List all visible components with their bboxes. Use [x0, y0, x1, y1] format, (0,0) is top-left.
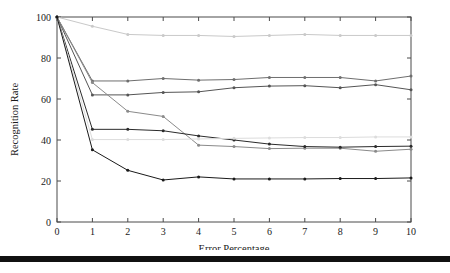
series-marker [410, 145, 413, 148]
series-marker [374, 150, 377, 153]
series-marker [126, 169, 129, 172]
x-tick-label: 8 [338, 226, 343, 237]
series-marker [162, 34, 165, 37]
x-axis-title: Error Percentage [199, 243, 270, 250]
y-tick-label: 0 [46, 217, 51, 228]
y-tick-label: 100 [36, 12, 51, 23]
figure-container: 012345678910020406080100Error Percentage… [0, 0, 450, 273]
series-marker [91, 93, 94, 96]
chart-svg: 012345678910020406080100Error Percentage… [0, 0, 450, 250]
series-marker [233, 137, 236, 140]
series-marker [268, 147, 271, 150]
series-marker [233, 177, 236, 180]
series-marker [162, 115, 165, 118]
series-marker [339, 76, 342, 79]
series-marker [126, 33, 129, 36]
x-tick-label: 4 [196, 226, 201, 237]
series-marker [339, 136, 342, 139]
series-marker [268, 34, 271, 37]
x-tick-label: 7 [302, 226, 307, 237]
x-tick-label: 5 [232, 226, 237, 237]
series-marker [56, 16, 59, 19]
series-marker [91, 25, 94, 28]
series-marker [126, 110, 129, 113]
series-marker [233, 78, 236, 81]
series-marker [126, 128, 129, 131]
x-tick-label: 3 [161, 226, 166, 237]
series-marker [126, 79, 129, 82]
plot-frame [57, 17, 411, 222]
series-marker [162, 178, 165, 181]
y-axis-title: Recognition Rate [9, 83, 20, 157]
series-marker [91, 128, 94, 131]
series-marker [339, 177, 342, 180]
series-marker [339, 34, 342, 37]
series-marker [233, 86, 236, 89]
series-marker [91, 138, 94, 141]
series-marker [303, 33, 306, 36]
x-tick-label: 10 [406, 226, 416, 237]
y-tick-label: 20 [41, 176, 51, 187]
x-tick-label: 2 [125, 226, 130, 237]
series-marker [303, 145, 306, 148]
series-marker [339, 146, 342, 149]
series-marker [410, 34, 413, 37]
series-line [57, 17, 411, 81]
series-marker [197, 90, 200, 93]
series-marker [197, 175, 200, 178]
series-marker [410, 88, 413, 91]
series-marker [410, 148, 413, 151]
series-marker [374, 135, 377, 138]
y-tick-label: 80 [41, 53, 51, 64]
line-chart: 012345678910020406080100Error Percentage… [0, 0, 450, 250]
series-marker [374, 79, 377, 82]
series-marker [374, 83, 377, 86]
x-tick-label: 9 [373, 226, 378, 237]
series-marker [410, 135, 413, 138]
series-marker [303, 136, 306, 139]
series-line [57, 17, 411, 180]
series-marker [410, 176, 413, 179]
x-tick-label: 1 [90, 226, 95, 237]
series-marker [197, 137, 200, 140]
series-marker [162, 77, 165, 80]
series-marker [374, 145, 377, 148]
series-marker [233, 145, 236, 148]
series-marker [197, 79, 200, 82]
series-marker [126, 138, 129, 141]
x-tick-label: 0 [55, 226, 60, 237]
series-marker [197, 34, 200, 37]
series-marker [162, 138, 165, 141]
series-marker [162, 129, 165, 132]
series-marker [268, 76, 271, 79]
series-marker [197, 144, 200, 147]
series-marker [268, 136, 271, 139]
series-marker [268, 143, 271, 146]
series-line [57, 17, 411, 95]
series-marker [126, 93, 129, 96]
series-marker [339, 86, 342, 89]
series-marker [303, 84, 306, 87]
x-tick-label: 6 [267, 226, 272, 237]
y-tick-label: 40 [41, 135, 51, 146]
series-marker [197, 134, 200, 137]
series-marker [233, 35, 236, 38]
series-marker [268, 177, 271, 180]
series-marker [268, 85, 271, 88]
y-tick-label: 60 [41, 94, 51, 105]
series-marker [410, 75, 413, 78]
series-marker [374, 177, 377, 180]
series-marker [374, 34, 377, 37]
series-marker [303, 177, 306, 180]
series-marker [91, 81, 94, 84]
series-marker [91, 148, 94, 151]
bottom-divider-rule [0, 256, 450, 262]
series-marker [162, 91, 165, 94]
series-marker [303, 76, 306, 79]
